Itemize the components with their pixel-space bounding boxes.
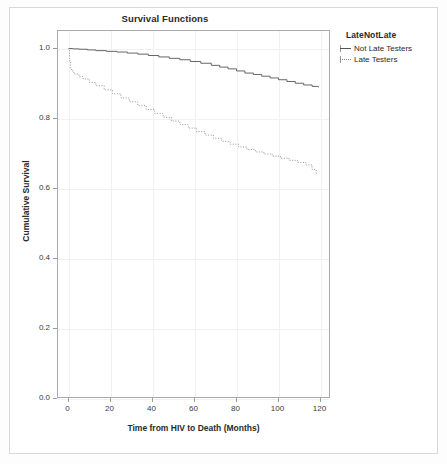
y-tick-mark <box>53 118 57 119</box>
legend: LateNotLate Not Late Testers Late Tester… <box>340 30 440 66</box>
y-tick-label: 1.0 <box>14 43 50 52</box>
legend-swatch-dotted-icon <box>340 56 351 63</box>
x-tick-label: 80 <box>216 404 256 413</box>
legend-swatch-solid-icon <box>340 45 351 52</box>
y-tick-mark <box>53 48 57 49</box>
x-tick-label: 0 <box>48 404 88 413</box>
legend-label: Late Testers <box>354 55 397 64</box>
x-tick-mark <box>278 398 279 402</box>
survival-curve-late-testers <box>69 49 317 175</box>
survival-curves <box>58 31 331 399</box>
legend-item-not-late-testers[interactable]: Not Late Testers <box>340 44 440 53</box>
y-axis-title: Cumulative Survival <box>21 131 31 271</box>
y-tick-mark <box>53 398 57 399</box>
y-tick-label: 0.6 <box>14 183 50 192</box>
x-tick-mark <box>236 398 237 402</box>
y-tick-mark <box>53 258 57 259</box>
x-tick-mark <box>110 398 111 402</box>
plot-area <box>57 30 330 398</box>
x-tick-label: 120 <box>300 404 340 413</box>
y-tick-label: 0.4 <box>14 253 50 262</box>
y-tick-mark <box>53 188 57 189</box>
x-tick-mark <box>68 398 69 402</box>
x-tick-label: 100 <box>258 404 298 413</box>
x-tick-label: 60 <box>174 404 214 413</box>
legend-item-late-testers[interactable]: Late Testers <box>340 55 440 64</box>
x-tick-mark <box>320 398 321 402</box>
x-tick-mark <box>194 398 195 402</box>
x-tick-label: 40 <box>132 404 172 413</box>
x-axis-title: Time from HIV to Death (Months) <box>57 423 330 433</box>
y-tick-label: 0.0 <box>14 393 50 402</box>
y-tick-label: 0.8 <box>14 113 50 122</box>
survival-curve-not-late-testers <box>69 49 319 88</box>
chart-title: Survival Functions <box>0 13 330 24</box>
x-tick-mark <box>152 398 153 402</box>
x-tick-label: 20 <box>90 404 130 413</box>
chart-canvas: Survival Functions 0.00.20.40.60.81.0 02… <box>0 0 447 464</box>
y-tick-mark <box>53 328 57 329</box>
y-tick-label: 0.2 <box>14 323 50 332</box>
legend-title: LateNotLate <box>346 30 440 40</box>
legend-label: Not Late Testers <box>354 44 412 53</box>
